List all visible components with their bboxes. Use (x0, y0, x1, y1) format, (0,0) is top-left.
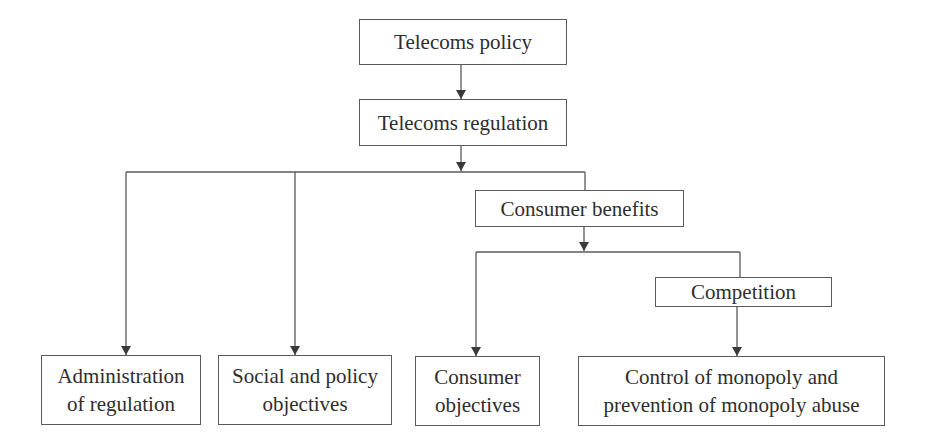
node-consumer-objectives: Consumer objectives (415, 356, 540, 426)
node-consumer-benefits: Consumer benefits (475, 190, 684, 227)
node-telecoms-policy: Telecoms policy (359, 19, 567, 65)
node-social-and-policy-objectives: Social and policy objectives (218, 355, 392, 425)
flow-diagram: Telecoms policy Telecoms regulation Cons… (0, 0, 929, 447)
node-control-of-monopoly: Control of monopoly and prevention of mo… (578, 356, 885, 426)
node-label-line1: Social and policy (232, 362, 378, 390)
node-competition: Competition (655, 277, 832, 307)
node-label: Consumer benefits (500, 195, 658, 223)
node-label-line1: Control of monopoly and (625, 363, 838, 391)
node-telecoms-regulation: Telecoms regulation (359, 99, 567, 146)
node-label-line2: prevention of monopoly abuse (603, 391, 859, 419)
node-label: Competition (691, 278, 796, 306)
node-label-line1: Consumer (434, 363, 520, 391)
node-label: Telecoms policy (394, 28, 532, 56)
node-label-line2: objectives (435, 391, 520, 419)
node-label-line1: Administration (57, 362, 184, 390)
node-label-line2: objectives (262, 390, 347, 418)
node-label-line2: of regulation (67, 390, 175, 418)
node-label: Telecoms regulation (378, 109, 549, 137)
node-administration-of-regulation: Administration of regulation (41, 355, 201, 425)
